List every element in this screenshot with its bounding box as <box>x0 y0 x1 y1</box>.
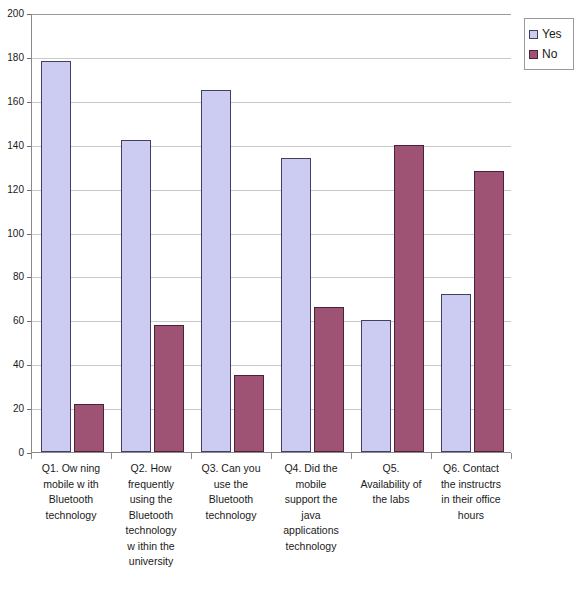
category-label-line: mobile <box>271 477 351 493</box>
category-label-line: technology <box>111 523 191 539</box>
bar-yes <box>441 294 471 452</box>
category-label-line: Q4. Did the <box>271 461 351 477</box>
y-axis-tick-label: 140 <box>0 141 24 151</box>
category-label: Q4. Did themobilesupport thejavaapplicat… <box>271 461 351 554</box>
y-axis-tick-label: 200 <box>0 9 24 19</box>
category-label-line: Q2. How <box>111 461 191 477</box>
category-label-line: Bluetooth <box>191 492 271 508</box>
y-axis-tick-label: 60 <box>0 316 24 326</box>
category-separator <box>111 453 112 459</box>
bar-no <box>234 375 264 452</box>
category-label-line: applications <box>271 523 351 539</box>
category-label: Q3. Can youuse theBluetoothtechnology <box>191 461 271 523</box>
bar-group <box>432 14 512 452</box>
category-separator <box>431 453 432 459</box>
y-axis-tick-label: 40 <box>0 360 24 370</box>
y-axis-tick-label: 20 <box>0 404 24 414</box>
legend-swatch-no-icon <box>529 50 538 59</box>
category-separator <box>351 453 352 459</box>
bar-yes <box>281 158 311 452</box>
category-label: Q1. Ow ningmobile w ithBluetoothtechnolo… <box>31 461 111 523</box>
bar-yes <box>361 320 391 452</box>
category-separator <box>191 453 192 459</box>
bar-no <box>74 404 104 452</box>
category-label: Q6. Contactthe instructrsin their office… <box>431 461 511 523</box>
category-label-line: technology <box>191 508 271 524</box>
category-separator <box>271 453 272 459</box>
bar-yes <box>201 90 231 452</box>
category-label: Q5.Availability ofthe labs <box>351 461 431 508</box>
category-label-line: hours <box>431 508 511 524</box>
bar-group <box>192 14 272 452</box>
plot-area <box>31 14 511 453</box>
category-label-line: Q6. Contact <box>431 461 511 477</box>
bar-group <box>352 14 432 452</box>
chart-legend: YesNo <box>524 18 574 70</box>
category-label-line: java <box>271 508 351 524</box>
category-separator <box>31 453 32 459</box>
category-label-line: w ithin the <box>111 539 191 555</box>
legend-label: No <box>542 48 557 60</box>
bar-no <box>394 145 424 452</box>
category-label-line: using the <box>111 492 191 508</box>
bar-yes <box>121 140 151 452</box>
category-label-line: university <box>111 554 191 570</box>
y-axis-tick-label: 80 <box>0 272 24 282</box>
y-axis-tick-label: 160 <box>0 97 24 107</box>
bar-group <box>272 14 352 452</box>
category-label-line: Bluetooth <box>111 508 191 524</box>
category-label-line: Q1. Ow ning <box>31 461 111 477</box>
bar-chart: 020406080100120140160180200 Q1. Ow ningm… <box>0 0 578 602</box>
category-label-line: Availability of <box>351 477 431 493</box>
legend-item-no[interactable]: No <box>529 44 568 64</box>
y-axis-tick-label: 0 <box>0 448 24 458</box>
bar-no <box>154 325 184 452</box>
y-axis-tick-label: 180 <box>0 53 24 63</box>
bar-group <box>32 14 112 452</box>
category-label-line: the labs <box>351 492 431 508</box>
bar-no <box>474 171 504 452</box>
category-label-line: Bluetooth <box>31 492 111 508</box>
legend-item-yes[interactable]: Yes <box>529 24 568 44</box>
category-label-line: support the <box>271 492 351 508</box>
legend-swatch-yes-icon <box>529 30 538 39</box>
bar-no <box>314 307 344 452</box>
y-axis-tick-label: 120 <box>0 185 24 195</box>
category-axis-labels: Q1. Ow ningmobile w ithBluetoothtechnolo… <box>31 461 511 602</box>
category-label-line: Q3. Can you <box>191 461 271 477</box>
category-label-line: mobile w ith <box>31 477 111 493</box>
y-axis-tick-label: 100 <box>0 229 24 239</box>
bar-yes <box>41 61 71 452</box>
category-label-line: the instructrs <box>431 477 511 493</box>
category-label-line: use the <box>191 477 271 493</box>
category-label-line: Q5. <box>351 461 431 477</box>
category-label-line: frequently <box>111 477 191 493</box>
category-label: Q2. Howfrequentlyusing theBluetoothtechn… <box>111 461 191 570</box>
category-label-line: technology <box>31 508 111 524</box>
category-separator <box>511 453 512 459</box>
category-label-line: technology <box>271 539 351 555</box>
legend-label: Yes <box>542 28 562 40</box>
category-label-line: in their office <box>431 492 511 508</box>
bar-group <box>112 14 192 452</box>
